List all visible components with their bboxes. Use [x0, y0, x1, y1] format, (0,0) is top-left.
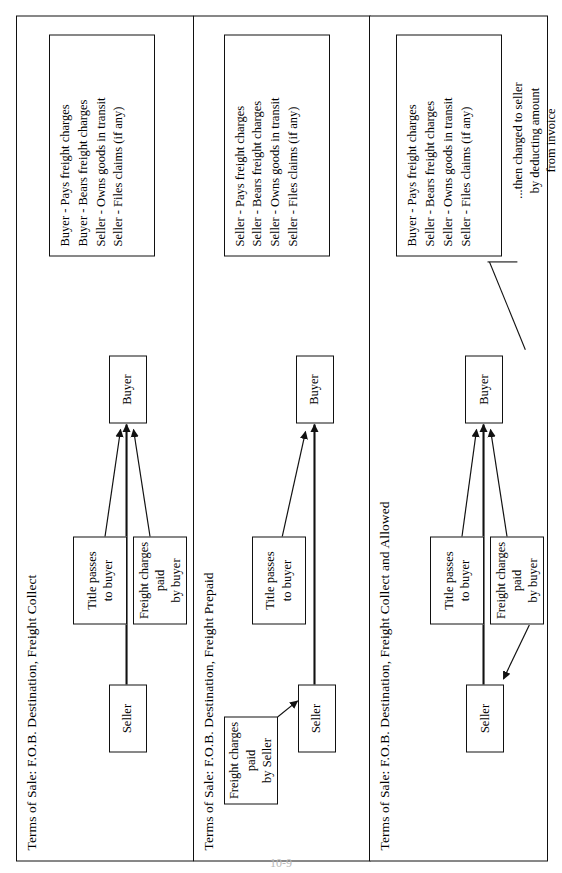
panel-1-node-freight-charges: Freight charges paid by buyer — [133, 536, 187, 624]
panel-3-node-title-passes: Title passes to buyer — [430, 536, 484, 624]
panel-3-title-passes-line1: Title passes — [441, 551, 457, 609]
panel-2-freight-line2: by Seller — [259, 738, 275, 783]
panel-1-title: Terms of Sale: F.O.B. Destination, Freig… — [24, 574, 40, 850]
panel-1-node-buyer: Buyer — [109, 355, 147, 423]
panel-2-node-title-passes: Title passes to buyer — [252, 536, 306, 624]
panel-1-title-passes-line2: to buyer — [100, 559, 116, 600]
panel-fob-destination-freight-prepaid: Terms of Sale: F.O.B. Destination, Freig… — [193, 15, 371, 861]
panel-2-title: Terms of Sale: F.O.B. Destination, Freig… — [201, 572, 217, 850]
panel-3-legend-item: Seller - Owns goods in transit — [440, 44, 458, 246]
panel-3-freight-line2: by buyer — [525, 558, 541, 602]
panel-1-seller-label: Seller — [120, 703, 135, 732]
panel-2-node-seller: Seller — [298, 684, 336, 752]
panel-2-seller-label: Seller — [309, 703, 324, 732]
panel-3-note-line3: from invoice — [543, 34, 559, 246]
panel-2-title-passes-line2: to buyer — [279, 559, 295, 600]
panel-1-node-title-passes: Title passes to buyer — [73, 536, 127, 624]
figure: Terms of Sale: F.O.B. Destination, Freig… — [16, 15, 546, 861]
panel-3-legend: Buyer - Pays freight charges Seller - Be… — [396, 34, 502, 256]
panel-1-legend: Buyer - Pays freight charges Buyer - Bea… — [49, 34, 155, 256]
panel-3-seller-label: Seller — [478, 703, 493, 732]
panel-1-buyer-label: Buyer — [120, 374, 135, 405]
panel-1-legend-item: Seller - Files claims (if any) — [110, 44, 128, 246]
panel-2-legend-item: Seller - Files claims (if any) — [285, 44, 303, 246]
panel-1-legend-item: Buyer - Pays freight charges — [57, 44, 75, 246]
panel-3-node-freight-charges: Freight charges paid by buyer — [490, 536, 544, 624]
panel-3-legend-item: Seller - Files claims (if any) — [458, 44, 476, 246]
panel-2-freight-line1: Freight charges paid — [226, 721, 259, 799]
panel-fob-destination-freight-collect: Terms of Sale: F.O.B. Destination, Freig… — [16, 15, 194, 861]
panel-fob-destination-freight-collect-and-allowed: Terms of Sale: F.O.B. Destination, Freig… — [369, 15, 547, 861]
panel-1-legend-item: Seller - Owns goods in transit — [93, 44, 111, 246]
page-number: 10-9 — [0, 856, 562, 871]
panel-3-legend-item: Seller - Bears freight charges — [422, 44, 440, 246]
panel-3-note-line1: ...then charged to seller — [510, 34, 526, 246]
panel-2-legend-item: Seller - Owns goods in transit — [267, 44, 285, 246]
panel-3-node-seller: Seller — [466, 684, 504, 752]
panel-3-buyer-label: Buyer — [477, 374, 492, 405]
panel-1-freight-line2: by buyer — [168, 558, 184, 602]
panel-1-title-passes-line1: Title passes — [84, 551, 100, 609]
panel-2-legend: Seller - Pays freight charges Seller - B… — [224, 34, 330, 256]
panel-1-freight-line1: Freight charges paid — [136, 541, 169, 619]
panel-1-node-seller: Seller — [109, 684, 147, 752]
panel-3-title: Terms of Sale: F.O.B. Destination, Freig… — [377, 501, 393, 850]
panel-2-node-freight-charges: Freight charges paid by Seller — [224, 716, 278, 804]
panel-2-buyer-label: Buyer — [307, 374, 322, 405]
panel-3-title-passes-line2: to buyer — [457, 559, 473, 600]
panel-2-legend-item: Seller - Pays freight charges — [232, 44, 250, 246]
rotated-figure-canvas: Terms of Sale: F.O.B. Destination, Freig… — [0, 0, 562, 873]
panel-2-node-buyer: Buyer — [296, 355, 334, 423]
panel-2-legend-item: Seller - Bears freight charges — [249, 44, 267, 246]
panel-2-title-passes-line1: Title passes — [262, 551, 278, 609]
panel-3-note-line2: by deducting amount — [527, 34, 543, 246]
panel-3-freight-line1: Freight charges paid — [493, 541, 526, 619]
panel-3-node-buyer: Buyer — [465, 355, 503, 423]
panel-3-legend-item: Buyer - Pays freight charges — [404, 44, 422, 246]
panel-1-legend-item: Buyer - Bears freight charges — [75, 44, 93, 246]
panel-3-charge-back-note: ...then charged to seller by deducting a… — [510, 34, 559, 246]
